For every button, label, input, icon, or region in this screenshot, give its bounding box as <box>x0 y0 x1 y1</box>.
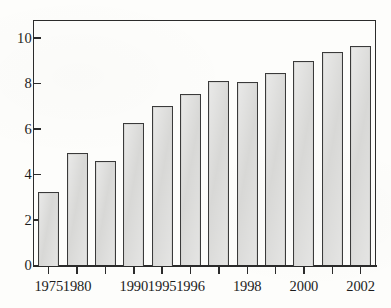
x-axis-tick <box>332 267 333 274</box>
bar <box>38 192 59 266</box>
bar <box>152 106 173 265</box>
x-axis-tick <box>48 267 49 274</box>
bar <box>180 94 201 266</box>
y-axis-label: 10 <box>0 31 32 46</box>
x-axis-label: 2002 <box>346 279 375 294</box>
y-axis-label: 4 <box>0 167 32 182</box>
y-axis-tick <box>34 174 41 176</box>
x-axis-label: 1996 <box>176 279 205 294</box>
x-axis-tick <box>247 267 248 274</box>
bar <box>350 46 371 266</box>
y-axis-tick <box>34 83 41 85</box>
y-axis-tick <box>34 37 41 39</box>
x-axis-tick <box>303 267 304 274</box>
x-axis-tick <box>360 267 361 274</box>
bar <box>208 81 229 265</box>
y-axis-tick <box>34 128 41 130</box>
y-axis-label: 2 <box>0 213 32 228</box>
bar <box>293 61 314 266</box>
x-axis-tick <box>218 267 219 274</box>
bar <box>322 52 343 266</box>
bar-chart: 0246810 19751980199019951996199820002002 <box>0 0 391 308</box>
bar <box>67 153 88 266</box>
x-axis-tick <box>275 267 276 274</box>
x-axis-label: 1975 <box>34 279 63 294</box>
bar <box>123 123 144 265</box>
x-axis-label: 1990 <box>120 279 149 294</box>
x-axis-tick <box>105 267 106 274</box>
x-axis-label: 1998 <box>233 279 262 294</box>
x-axis-label: 1980 <box>63 279 92 294</box>
x-axis-label: 2000 <box>290 279 319 294</box>
bar <box>237 82 258 265</box>
y-axis-label: 8 <box>0 76 32 91</box>
bar <box>95 161 116 266</box>
x-axis-tick <box>133 267 134 274</box>
x-axis-tick <box>190 267 191 274</box>
x-axis-tick <box>76 267 77 274</box>
y-axis-label: 6 <box>0 122 32 137</box>
x-axis-tick <box>161 267 162 274</box>
x-axis-label: 1995 <box>148 279 177 294</box>
bar <box>265 73 286 265</box>
y-axis-label: 0 <box>0 258 32 273</box>
